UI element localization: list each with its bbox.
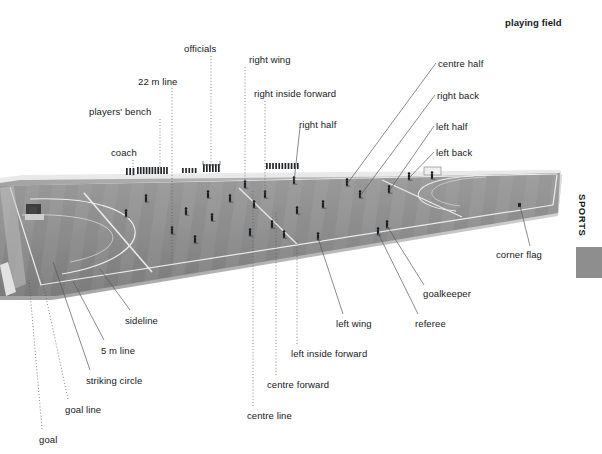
- label-centre-line: centre line: [247, 410, 292, 421]
- corner-flag-leader: [520, 206, 530, 246]
- 5m-line-leader: [73, 281, 104, 340]
- goal-line-leader: [41, 274, 68, 399]
- label-left-back: left back: [436, 147, 472, 158]
- side-color-swatch: [576, 247, 602, 278]
- label-referee: referee: [415, 318, 446, 329]
- label-goal: goal: [39, 434, 57, 445]
- label-sideline: sideline: [125, 315, 158, 326]
- goalkeeper-leader: [387, 226, 424, 285]
- label-officials: officials: [184, 43, 216, 54]
- referee-leader: [378, 233, 418, 314]
- label-left-half: left half: [436, 121, 467, 132]
- left-half-leader: [389, 126, 434, 191]
- officials-bracket: [203, 161, 220, 165]
- sideline-leader: [100, 269, 130, 310]
- label-left-wing: left wing: [336, 318, 372, 329]
- left-back-leader: [409, 152, 434, 178]
- illustration-canvas: playing field coachplayers' bench22 m li…: [0, 0, 602, 454]
- label-coach: coach: [111, 147, 137, 158]
- label-5m-line: 5 m line: [101, 345, 135, 356]
- left-wing-leader: [318, 238, 343, 314]
- label-goal-line: goal line: [65, 404, 101, 415]
- section-tab-sports: SPORTS: [577, 194, 588, 236]
- goal-leader: [29, 280, 42, 429]
- label-players-bench: players' bench: [89, 106, 151, 117]
- centre-half-leader: [347, 63, 436, 184]
- label-goalkeeper: goalkeeper: [423, 288, 471, 299]
- label-corner-flag: corner flag: [496, 249, 542, 260]
- label-right-half: right half: [299, 119, 336, 130]
- page-title: playing field: [505, 17, 562, 28]
- label-right-back: right back: [437, 90, 479, 101]
- label-centre-forward: centre forward: [267, 379, 329, 390]
- label-right-wing: right wing: [249, 54, 291, 65]
- right-half-leader: [294, 127, 300, 182]
- label-striking-circle: striking circle: [86, 375, 142, 386]
- label-right-inside-forward: right inside forward: [254, 88, 336, 99]
- striking-circle-leader: [53, 262, 90, 370]
- right-back-leader: [360, 95, 435, 196]
- label-left-inside-forward: left inside forward: [291, 348, 367, 359]
- label-centre-half: centre half: [438, 58, 483, 69]
- label-22m-line: 22 m line: [138, 76, 177, 87]
